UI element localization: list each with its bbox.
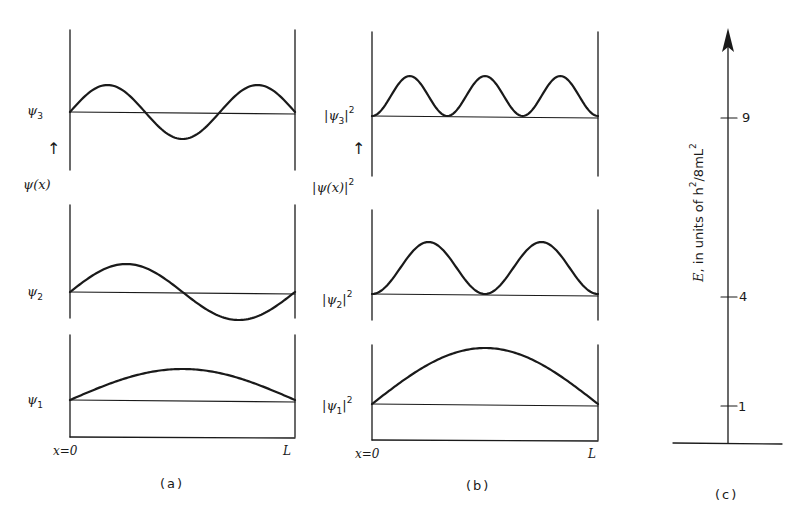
- x-start-label-a: x=0: [53, 445, 77, 457]
- baseline: [70, 400, 295, 402]
- x-end-label-a: L: [283, 445, 291, 457]
- caption-c: (c): [715, 487, 738, 502]
- energy-tick-4: 4: [739, 290, 747, 303]
- floor-line-b: [372, 440, 598, 441]
- psi3-squared-curve: [372, 76, 598, 116]
- caption-b: (b): [466, 478, 490, 493]
- baseline: [372, 404, 598, 406]
- psi1-curve: [70, 369, 295, 400]
- psi1-label: ψ1: [27, 393, 43, 410]
- energy-tick-9: 9: [742, 111, 750, 124]
- figure-canvas: [0, 0, 804, 518]
- arrow-up-icon: ↑: [352, 141, 365, 157]
- psi-x-squared-axis-label: |ψ(x)|2: [312, 178, 354, 194]
- energy-tick-1: 1: [738, 400, 746, 413]
- baseline: [70, 112, 295, 114]
- psi-x-axis-label: ψ(x): [23, 178, 51, 191]
- floor-line-a: [70, 437, 295, 438]
- x-end-label-b: L: [588, 448, 596, 460]
- arrow-up-icon: ↑: [47, 141, 60, 157]
- psi2-label: ψ2: [27, 285, 43, 302]
- psi2-squared-label: |ψ2|2: [322, 290, 352, 310]
- caption-a: (a): [160, 476, 184, 491]
- psi3-label: ψ3: [27, 104, 43, 121]
- energy-baseline: [673, 443, 782, 444]
- energy-axis-label: E, in units of h2/8mL2: [688, 143, 706, 282]
- x-start-label-b: x=0: [355, 448, 379, 460]
- psi3-squared-label: |ψ3|2: [324, 106, 354, 126]
- psi1-squared-label: |ψ1|2: [322, 396, 352, 416]
- psi2-squared-curve: [372, 242, 598, 294]
- psi1-squared-curve: [372, 348, 598, 404]
- baseline: [372, 116, 598, 118]
